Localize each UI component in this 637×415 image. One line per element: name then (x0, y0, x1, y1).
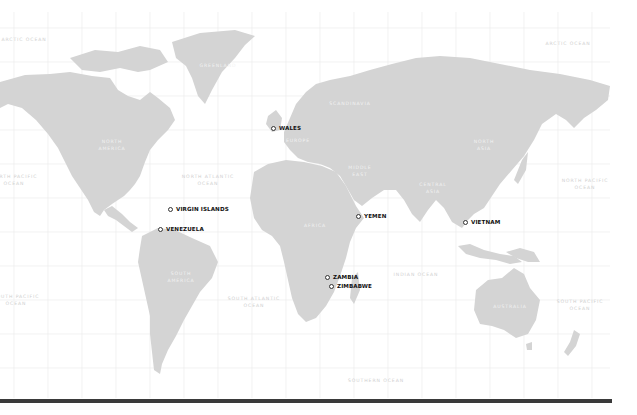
label-south-pacific-west: SOUTH PACIFIC OCEAN (0, 293, 39, 307)
marker-label: ZIMBABWE (337, 283, 372, 289)
label-south-america: SOUTH AMERICA (167, 270, 194, 284)
label-arctic-ocean-east: ARCTIC OCEAN (545, 40, 590, 47)
label-north-pacific-east: NORTH PACIFIC OCEAN (562, 177, 609, 191)
marker-wales[interactable]: WALES (271, 125, 301, 131)
marker-zimbabwe[interactable]: ZIMBABWE (329, 283, 372, 289)
label-central-asia: CENTRAL ASIA (419, 181, 446, 195)
bottom-divider-bar (0, 399, 612, 403)
label-middle-east: MIDDLE EAST (348, 164, 371, 178)
marker-zambia[interactable]: ZAMBIA (325, 274, 358, 280)
marker-label: VENEZUELA (166, 226, 204, 232)
marker-dot-icon (463, 220, 468, 225)
marker-dot-icon (329, 284, 334, 289)
marker-label: VIETNAM (471, 219, 500, 225)
marker-virgin-islands[interactable]: VIRGIN ISLANDS (168, 206, 229, 212)
marker-dot-icon (168, 207, 173, 212)
marker-dot-icon (325, 275, 330, 280)
label-greenland: GREENLAND (200, 62, 237, 69)
marker-label: YEMEN (364, 213, 386, 219)
marker-dot-icon (356, 214, 361, 219)
marker-vietnam[interactable]: VIETNAM (463, 219, 500, 225)
marker-label: ZAMBIA (333, 274, 358, 280)
label-indian-ocean: INDIAN OCEAN (394, 271, 439, 278)
label-north-atlantic: NORTH ATLANTIC OCEAN (182, 173, 234, 187)
label-europe: EUROPE (286, 137, 310, 144)
label-north-asia: NORTH ASIA (474, 138, 495, 152)
marker-dot-icon (158, 227, 163, 232)
label-south-pacific-east: SOUTH PACIFIC OCEAN (557, 298, 604, 312)
label-australia: AUSTRALIA (493, 303, 527, 310)
central-america-landmass (104, 206, 138, 232)
north-america-landmass (0, 72, 175, 216)
label-arctic-ocean-west: ARCTIC OCEAN (1, 36, 46, 43)
marker-yemen[interactable]: YEMEN (356, 213, 386, 219)
marker-label: WALES (279, 125, 301, 131)
arctic-islands-landmass (70, 46, 168, 72)
label-africa: AFRICA (304, 222, 326, 229)
marker-venezuela[interactable]: VENEZUELA (158, 226, 204, 232)
label-north-pacific-west: NORTH PACIFIC OCEAN (0, 173, 37, 187)
label-southern-ocean: SOUTHERN OCEAN (348, 377, 404, 384)
label-north-america: NORTH AMERICA (98, 138, 125, 152)
marker-label: VIRGIN ISLANDS (176, 206, 229, 212)
label-scandinavia: SCANDINAVIA (329, 100, 370, 107)
world-map (0, 0, 637, 415)
marker-dot-icon (271, 126, 276, 131)
tasmania-landmass (526, 342, 532, 350)
label-south-atlantic: SOUTH ATLANTIC OCEAN (228, 295, 280, 309)
